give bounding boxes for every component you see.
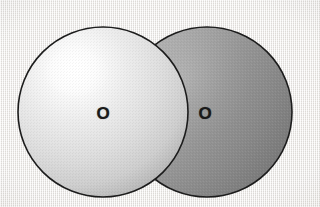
atom-label-right: O xyxy=(198,105,211,122)
oxygen-molecule-graphic xyxy=(0,0,320,207)
atom-label-left: O xyxy=(96,105,109,122)
molecular-model-figure: O O xyxy=(0,0,320,207)
molecule-svg-canvas xyxy=(0,0,320,207)
